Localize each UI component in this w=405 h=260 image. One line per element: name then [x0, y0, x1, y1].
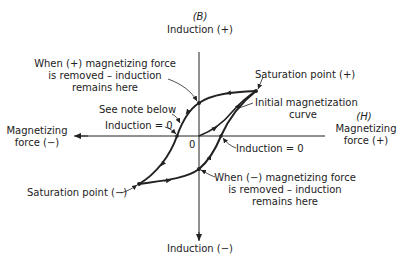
remanence-negative-label-2: is removed – induction — [210, 184, 360, 196]
vertical-axis-bottom-label: Induction (−) — [160, 243, 240, 255]
coercive-point-positive — [219, 134, 223, 138]
see-note-label: See note below — [99, 104, 176, 116]
initial-curve-label-1: Initial magnetization — [255, 97, 358, 109]
remanence-negative-label-3: remains here — [210, 196, 360, 208]
induction-zero-right-label: Induction = 0 — [236, 143, 304, 155]
saturation-point-positive — [254, 89, 258, 93]
origin-label: 0 — [189, 139, 195, 151]
remanence-positive-label-3: remains here — [30, 82, 180, 94]
remanence-point-positive — [197, 101, 201, 105]
remanence-positive-label-1: When (+) magnetizing force — [30, 58, 180, 70]
remanence-positive-label-2: is removed – induction — [30, 70, 180, 82]
horizontal-axis-right-label-2: force (+) — [330, 135, 402, 147]
saturation-positive-label: Saturation point (+) — [255, 69, 355, 81]
horizontal-axis-symbol: (H) — [352, 111, 376, 123]
remanence-point-negative — [197, 167, 201, 171]
saturation-negative-label: Saturation point (−) — [27, 187, 127, 199]
horizontal-axis-left-label-2: force (−) — [4, 137, 70, 149]
vertical-axis-symbol: (B) — [190, 11, 210, 23]
horizontal-axis-left-label-1: Magnetizing — [4, 125, 70, 137]
coercive-point-negative — [175, 134, 179, 138]
induction-zero-left-label: Induction = 0 — [105, 120, 173, 132]
saturation-point-negative — [137, 182, 141, 186]
horizontal-axis-right-label-1: Magnetizing — [330, 123, 402, 135]
vertical-axis-top-label: Induction (+) — [160, 24, 240, 36]
remanence-negative-label-1: When (−) magnetizing force — [210, 172, 360, 184]
initial-curve-label-2: curve — [289, 109, 317, 121]
